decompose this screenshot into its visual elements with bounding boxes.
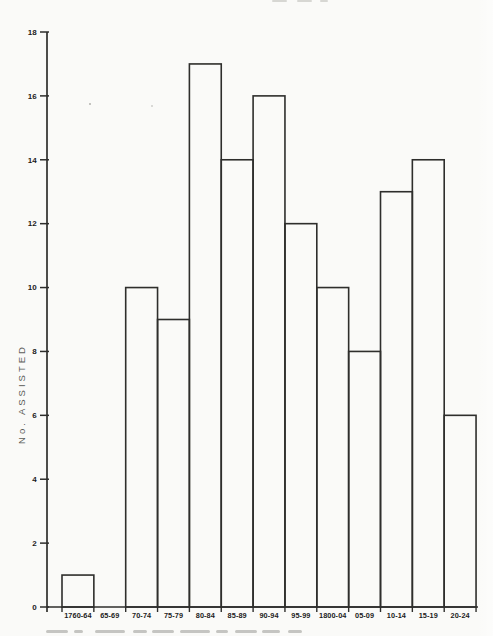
caption-remnant-mark [74,630,83,633]
bar-85-89 [221,160,253,607]
x-category-label: 85-89 [228,611,247,620]
header-remnant-mark [297,0,312,2]
x-category-label: 70-74 [132,611,152,620]
scanned-figure-page: 0246810121416181760-6465-6970-7475-7980-… [0,0,493,636]
x-category-label: 10-14 [387,611,407,620]
bar-80-84 [189,64,221,607]
bar-1760-64 [62,575,94,607]
y-tick-label: 10 [28,283,38,292]
x-category-label: 1760-64 [64,611,92,620]
x-category-label: 1800-04 [319,611,347,620]
y-axis-title: No. ASSISTED [15,335,29,453]
bar-95-99 [285,224,317,607]
paper-speck [89,103,91,105]
x-category-label: 75-79 [164,611,183,620]
x-category-label: 90-94 [259,611,279,620]
y-tick-label: 6 [32,411,37,420]
caption-remnant-mark [216,630,228,633]
header-remnant-mark [272,0,287,2]
x-category-label: 80-84 [196,611,216,620]
paper-speck [151,105,153,107]
y-tick-label: 0 [32,603,37,612]
histogram-svg: 0246810121416181760-6465-6970-7475-7980-… [0,0,493,636]
bar-1800-04 [317,288,349,607]
x-category-label: 95-99 [291,611,310,620]
caption-remnant-mark [262,630,280,633]
caption-remnant-mark [288,630,302,633]
caption-remnant-mark [133,630,147,633]
x-category-label: 20-24 [451,611,471,620]
caption-remnant-mark [95,630,125,633]
x-category-label: 65-69 [100,611,119,620]
header-remnant-mark [320,0,328,2]
y-tick-label: 4 [32,475,37,484]
y-tick-label: 16 [28,92,38,101]
caption-remnant-mark [46,630,68,633]
x-category-label: 15-19 [419,611,438,620]
y-tick-label: 12 [28,219,38,228]
bar-15-19 [412,160,444,607]
bar-05-09 [349,351,381,607]
y-tick-label: 2 [32,539,37,548]
caption-remnant-mark [152,630,174,633]
y-tick-label: 8 [32,347,37,356]
bar-20-24 [444,415,476,607]
x-category-label: 05-09 [355,611,374,620]
bar-70-74 [126,288,158,607]
bar-75-79 [158,320,190,608]
bar-90-94 [253,96,285,607]
caption-remnant-mark [180,630,210,633]
bar-10-14 [381,192,413,607]
caption-remnant-mark [235,630,257,633]
y-tick-label: 14 [28,156,38,165]
y-tick-label: 18 [28,28,38,37]
